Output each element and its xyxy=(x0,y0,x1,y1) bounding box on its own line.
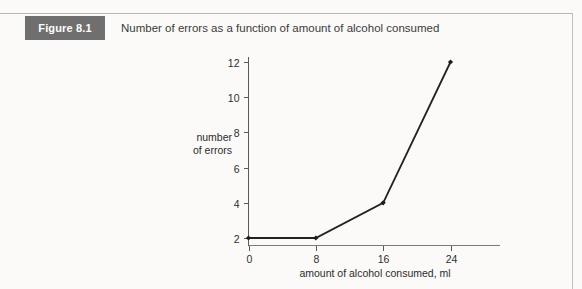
figure-page: Figure 8.1 Number of errors as a functio… xyxy=(0,0,582,289)
y-tick-label: 8 xyxy=(234,127,240,139)
y-axis-title-line-2: of errors xyxy=(193,144,232,156)
x-tick-label: 16 xyxy=(378,253,390,265)
y-tick-label: 6 xyxy=(234,163,240,175)
line-chart: 24681012 081624 number of errors amount … xyxy=(0,0,582,289)
data-point-marker xyxy=(246,235,251,240)
chart-axes xyxy=(249,57,501,246)
y-axis-ticks xyxy=(244,63,249,239)
x-axis-title: amount of alcohol consumed, ml xyxy=(299,267,450,279)
y-tick-label: 2 xyxy=(234,233,240,245)
y-tick-label: 10 xyxy=(228,92,240,104)
chart-svg: 24681012 081624 number of errors amount … xyxy=(0,0,582,289)
x-axis-tick-labels: 081624 xyxy=(247,253,458,265)
x-tick-label: 0 xyxy=(247,253,253,265)
y-tick-label: 12 xyxy=(228,57,240,69)
x-tick-label: 24 xyxy=(446,253,458,265)
y-axis-title-line-1: number xyxy=(196,131,232,143)
x-tick-label: 8 xyxy=(314,253,320,265)
x-axis-ticks xyxy=(250,246,452,251)
y-axis-title: number of errors xyxy=(193,131,233,156)
series-line xyxy=(249,62,451,238)
series-markers xyxy=(246,59,453,240)
y-tick-label: 4 xyxy=(234,198,240,210)
